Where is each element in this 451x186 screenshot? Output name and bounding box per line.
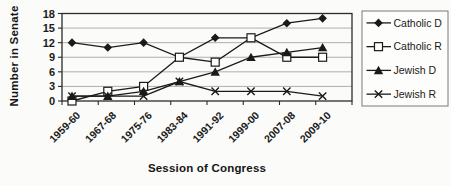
legend-square-marker: [375, 43, 383, 51]
senate-religion-line-chart-figure: Number in Senate 03691215181959-601967-6…: [0, 0, 451, 186]
x-tick-label: 2009-10: [297, 109, 333, 145]
series-catholic-d-diamond-marker: [139, 38, 148, 47]
x-tick-label: 2007-08: [261, 109, 297, 145]
y-tick-label: 3: [49, 80, 55, 92]
line-chart: 03691215181959-601967-681975-761983-8419…: [0, 0, 451, 186]
series-catholic-r-square-marker: [175, 53, 183, 61]
x-tick-label: 1975-76: [118, 109, 154, 145]
legend-label-jewish-r: Jewish R: [394, 88, 437, 100]
legend-label-jewish-d: Jewish D: [394, 64, 437, 76]
y-tick-label: 15: [43, 22, 55, 34]
y-tick-label: 6: [49, 66, 55, 78]
series-catholic-d-diamond-marker: [68, 38, 77, 47]
y-tick-label: 18: [43, 8, 55, 20]
series-catholic-r-square-marker: [319, 53, 327, 61]
series-catholic-d-diamond-marker: [211, 34, 220, 43]
legend-label-catholic-d: Catholic D: [394, 17, 443, 29]
x-axis-title: Session of Congress: [62, 162, 352, 174]
x-tick-label: 1959-60: [47, 109, 83, 145]
y-axis-title: Number in Senate: [8, 1, 20, 111]
legend-label-catholic-r: Catholic R: [394, 40, 443, 52]
x-tick-label: 1967-68: [82, 109, 118, 145]
series-catholic-r-square-marker: [247, 34, 255, 42]
series-catholic-d-diamond-marker: [283, 19, 292, 28]
y-tick-label: 12: [43, 37, 55, 49]
series-catholic-r-square-marker: [211, 58, 219, 66]
x-tick-label: 1991-92: [190, 109, 226, 145]
series-catholic-d-diamond-marker: [104, 43, 113, 52]
series-catholic-d-diamond-marker: [318, 14, 327, 23]
series-jewish-d-triangle-marker: [318, 43, 327, 51]
y-tick-label: 9: [49, 51, 55, 63]
x-tick-label: 1999-00: [226, 109, 262, 145]
y-tick-label: 0: [49, 95, 55, 107]
x-tick-label: 1983-84: [154, 109, 190, 145]
